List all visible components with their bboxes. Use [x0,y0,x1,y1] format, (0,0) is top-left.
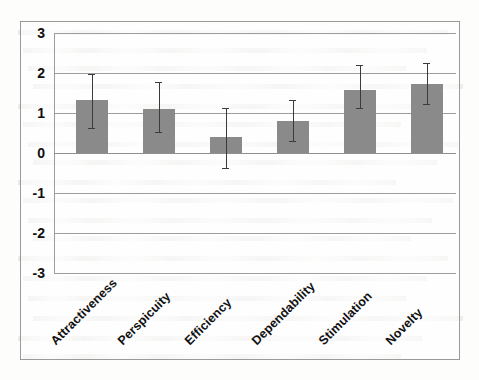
chart-frame: 3210-1-2-3 AttractivenessPerspicuityEffi… [20,21,460,360]
error-bar-efficiency [226,108,227,168]
y-tick-label: 0 [37,146,45,160]
error-bar-cap-upper [356,65,363,66]
y-tick-label: -2 [33,226,45,240]
x-tick-label-novelty: Novelty [383,306,425,348]
x-tick-label-efficiency: Efficiency [182,296,234,348]
error-bar-cap-lower [289,141,296,142]
error-bar-cap-upper [289,100,296,101]
gridline-3 [54,33,456,34]
plot-area: 3210-1-2-3 [54,33,456,273]
gridline-0 [54,153,456,154]
error-bar-cap-upper [88,74,95,75]
y-tick-label: 3 [37,26,45,40]
y-tick-label: 1 [37,106,45,120]
error-bar-cap-lower [423,104,430,105]
error-bar-attractiveness [92,74,93,128]
error-bar-cap-lower [222,168,229,169]
x-tick-label-perspicuity: Perspicuity [115,290,173,348]
error-bar-perspicuity [159,82,160,132]
y-tick-label: -3 [33,266,45,280]
x-tick-label-stimulation: Stimulation [316,289,375,348]
error-bar-cap-upper [155,82,162,83]
gridline-neg3 [54,273,456,274]
gridline-neg2 [54,233,456,234]
error-bar-novelty [427,63,428,104]
y-tick-label: -1 [33,186,45,200]
x-axis-tick-labels: AttractivenessPerspicuityEfficiencyDepen… [54,276,456,360]
error-bar-cap-upper [423,63,430,64]
error-bar-cap-lower [88,128,95,129]
gridline-1 [54,113,456,114]
gridline-2 [54,73,456,74]
gridline-neg1 [54,193,456,194]
y-tick-label: 2 [37,66,45,80]
error-bar-stimulation [360,65,361,108]
error-bar-cap-lower [356,108,363,109]
error-bar-cap-upper [222,108,229,109]
error-bar-cap-lower [155,132,162,133]
error-bar-dependability [293,100,294,140]
x-tick-label-attractiveness: Attractiveness [48,276,120,348]
plot-wrapper: 3210-1-2-3 AttractivenessPerspicuityEffi… [21,22,459,359]
x-tick-label-dependability: Dependability [249,279,318,348]
